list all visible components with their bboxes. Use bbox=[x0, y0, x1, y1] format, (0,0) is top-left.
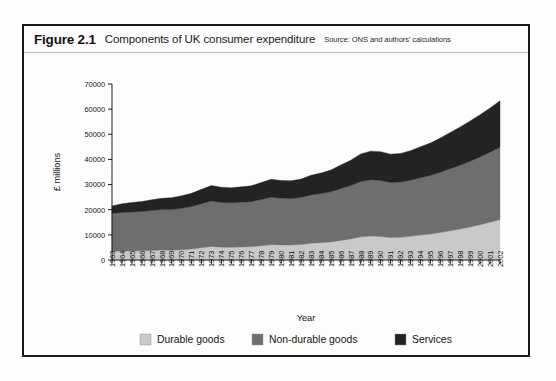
x-tick-label: 1984 bbox=[317, 251, 326, 267]
y-tick-label: 70000 bbox=[84, 80, 105, 89]
x-tick-label: 2001 bbox=[486, 251, 495, 267]
y-tick-label: 50000 bbox=[84, 130, 105, 139]
x-tick-label: 1978 bbox=[257, 251, 266, 267]
x-tick-label: 1968 bbox=[158, 251, 167, 267]
y-tick-label: 30000 bbox=[84, 180, 105, 189]
x-tick-label: 1979 bbox=[267, 251, 276, 267]
stacked-area-chart: 010000200003000040000500006000070000£ mi… bbox=[24, 53, 528, 357]
x-tick-label: 1971 bbox=[187, 251, 196, 267]
legend-label-1: Durable goods bbox=[157, 334, 225, 345]
x-tick-label: 1997 bbox=[446, 251, 455, 267]
x-tick-label: 1986 bbox=[337, 251, 346, 267]
x-tick-label: 1993 bbox=[406, 251, 415, 267]
x-tick-label: 1970 bbox=[177, 251, 186, 267]
x-tick-label: 1998 bbox=[456, 251, 465, 267]
x-tick-label: 1977 bbox=[247, 251, 256, 267]
x-tick-label: 1987 bbox=[347, 251, 356, 267]
x-tick-label: 1995 bbox=[426, 251, 435, 267]
x-axis-title: Year bbox=[297, 313, 316, 323]
legend-swatch-3 bbox=[395, 334, 406, 345]
y-tick-label: 60000 bbox=[84, 105, 105, 114]
y-tick-label: 40000 bbox=[84, 155, 105, 164]
x-axis: 1963196419651966196719681969197019711972… bbox=[108, 251, 505, 267]
figure-title-band: Figure 2.1 Components of UK consumer exp… bbox=[24, 26, 528, 53]
x-tick-label: 1969 bbox=[167, 251, 176, 267]
x-tick-label: 2002 bbox=[496, 251, 505, 267]
x-tick-label: 1990 bbox=[376, 251, 385, 267]
x-tick-label: 1981 bbox=[287, 251, 296, 267]
x-tick-label: 1966 bbox=[138, 251, 147, 267]
x-tick-label: 1975 bbox=[227, 251, 236, 267]
x-tick-label: 1983 bbox=[307, 251, 316, 267]
y-axis-title: £ millions bbox=[52, 152, 62, 191]
legend-swatch-1 bbox=[140, 334, 151, 345]
x-tick-label: 1976 bbox=[237, 251, 246, 267]
x-tick-label: 1965 bbox=[128, 251, 137, 267]
x-tick-label: 1988 bbox=[357, 251, 366, 267]
x-tick-label: 1999 bbox=[466, 251, 475, 267]
x-tick-label: 2000 bbox=[476, 251, 485, 267]
figure-frame: Figure 2.1 Components of UK consumer exp… bbox=[22, 24, 530, 357]
figure-number: Figure 2.1 bbox=[34, 32, 96, 47]
x-tick-label: 1982 bbox=[297, 251, 306, 267]
x-tick-label: 1985 bbox=[327, 251, 336, 267]
legend-label-3: Services bbox=[412, 334, 452, 345]
x-tick-label: 1992 bbox=[396, 251, 405, 267]
x-tick-label: 1964 bbox=[118, 251, 127, 267]
x-tick-label: 1967 bbox=[148, 251, 157, 267]
chart-canvas: 010000200003000040000500006000070000£ mi… bbox=[24, 53, 528, 357]
x-tick-label: 1974 bbox=[217, 251, 226, 267]
y-tick-label: 10000 bbox=[84, 231, 105, 240]
y-axis: 010000200003000040000500006000070000 bbox=[84, 80, 112, 265]
y-tick-label: 0 bbox=[101, 256, 105, 265]
x-tick-label: 1963 bbox=[108, 251, 117, 267]
x-tick-label: 1991 bbox=[386, 251, 395, 267]
chart-body: 010000200003000040000500006000070000£ mi… bbox=[24, 53, 528, 355]
y-tick-label: 20000 bbox=[84, 206, 105, 215]
legend-swatch-2 bbox=[252, 334, 263, 345]
x-tick-label: 1980 bbox=[277, 251, 286, 267]
x-tick-label: 1996 bbox=[436, 251, 445, 267]
figure-caption: Components of UK consumer expenditure bbox=[105, 33, 315, 45]
legend-label-2: Non-durable goods bbox=[269, 334, 357, 345]
x-tick-label: 1972 bbox=[197, 251, 206, 267]
x-tick-label: 1989 bbox=[366, 251, 375, 267]
chart-legend: Durable goodsNon-durable goodsServices bbox=[140, 334, 452, 345]
figure-source: Source: ONS and authors' calculations bbox=[324, 35, 451, 44]
x-tick-label: 1994 bbox=[416, 251, 425, 267]
figure-page: Figure 2.1 Components of UK consumer exp… bbox=[0, 0, 556, 381]
x-tick-label: 1973 bbox=[207, 251, 216, 267]
